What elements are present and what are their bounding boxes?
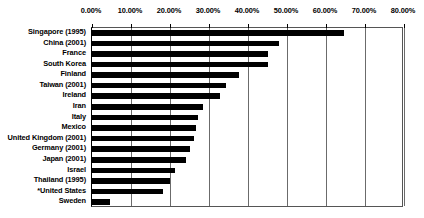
bar: [92, 168, 175, 174]
category-label: Thailand (1995): [0, 175, 89, 186]
bar-row: [92, 102, 402, 113]
bar-row: [92, 81, 402, 92]
bar: [92, 62, 268, 68]
bar-row: [92, 91, 402, 102]
bar-row: [92, 187, 402, 198]
bar-row: [92, 176, 402, 187]
x-axis-tick-label: 20.00%: [157, 6, 181, 16]
bar-row: [92, 123, 402, 134]
category-label: Finland: [0, 69, 89, 80]
category-label: China (2001): [0, 38, 89, 49]
bar-row: [92, 60, 402, 71]
bar-row: [92, 49, 402, 60]
bar-row: [92, 39, 402, 50]
category-label: Germany (2001): [0, 143, 89, 154]
bar: [92, 83, 226, 89]
x-axis-tick-label: 50.00%: [274, 6, 298, 16]
bar: [92, 115, 198, 121]
bar-row: [92, 70, 402, 81]
category-label: *United States: [0, 186, 89, 197]
category-label: Iran: [0, 101, 89, 112]
bar: [92, 146, 190, 152]
bar: [92, 125, 196, 131]
bar: [92, 178, 170, 184]
x-axis-tick-label: 0.00%: [81, 6, 101, 16]
category-label: South Korea: [0, 59, 89, 70]
bar-row: [92, 155, 402, 166]
category-axis-labels: Singapore (1995)China (2001)FranceSouth …: [0, 27, 89, 207]
bar-row: [92, 28, 402, 39]
bar: [92, 104, 203, 110]
bar-row: [92, 166, 402, 177]
category-label: Singapore (1995): [0, 27, 89, 38]
bar-row: [92, 144, 402, 155]
bar: [92, 72, 239, 78]
bar: [92, 199, 110, 205]
category-label: Sweden: [0, 196, 89, 207]
bar: [92, 30, 344, 36]
bar-rows: [92, 28, 402, 206]
bar-row: [92, 197, 402, 208]
x-axis-tick-label: 40.00%: [235, 6, 259, 16]
x-axis-tick-label: 30.00%: [196, 6, 220, 16]
bar-row: [92, 134, 402, 145]
x-axis-tick-label: 80.00%: [391, 6, 415, 16]
category-label: Japan (2001): [0, 154, 89, 165]
bar: [92, 189, 163, 195]
category-label: United Kingdom (2001): [0, 133, 89, 144]
x-axis-tick-label: 70.00%: [352, 6, 376, 16]
bar: [92, 136, 194, 142]
gridline: [404, 28, 405, 206]
category-label: Mexico: [0, 122, 89, 133]
x-axis-tick-label: 60.00%: [313, 6, 337, 16]
bar: [92, 93, 220, 99]
x-axis-tick-mark: [404, 24, 405, 28]
bar: [92, 41, 279, 47]
bar: [92, 51, 268, 57]
x-axis-tick-labels: 0.00%10.00%20.00%30.00%40.00%50.00%60.00…: [0, 6, 424, 20]
x-axis-tick-label: 10.00%: [118, 6, 142, 16]
bar-chart: 0.00%10.00%20.00%30.00%40.00%50.00%60.00…: [0, 0, 424, 218]
category-label: Ireland: [0, 90, 89, 101]
category-label: Taiwan (2001): [0, 80, 89, 91]
bar: [92, 157, 186, 163]
plot-area: [91, 27, 403, 207]
category-label: Israel: [0, 165, 89, 176]
bar-row: [92, 113, 402, 124]
category-label: Italy: [0, 112, 89, 123]
category-label: France: [0, 48, 89, 59]
